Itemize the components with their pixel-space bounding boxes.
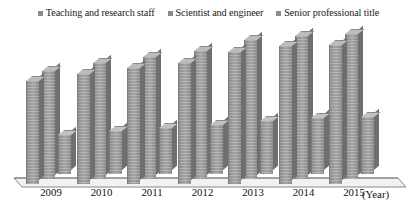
bar-face — [58, 135, 71, 174]
bar-2013-series-1[interactable] — [228, 52, 241, 184]
bar-2011-series-3[interactable] — [159, 128, 172, 174]
bar-group — [228, 28, 274, 184]
bar-group — [279, 28, 325, 184]
x-tick-label: 2014 — [293, 186, 315, 198]
legend-item-teaching-and-research-staff[interactable]: Teaching and research staff — [38, 7, 155, 18]
bar-2014-series-3[interactable] — [311, 118, 324, 174]
x-tick-label: 2009 — [40, 186, 62, 198]
bar-2013-series-3[interactable] — [260, 121, 273, 174]
bar-group — [77, 28, 123, 184]
bar-side — [140, 60, 145, 180]
x-axis: 2009201020112012201320142015 (Year) — [0, 186, 417, 208]
legend-swatch-icon — [276, 11, 281, 16]
x-tick-label: 2013 — [242, 186, 264, 198]
bar-side — [324, 110, 329, 170]
plot-area — [0, 24, 417, 184]
bar-face — [311, 118, 324, 174]
legend-item-scientist-and-engineer[interactable]: Scientist and engineer — [168, 7, 264, 18]
legend-label: Scientist and engineer — [176, 7, 264, 18]
bar-chart: Teaching and research staff Scientist an… — [0, 0, 417, 216]
x-tick-label: 2010 — [91, 186, 113, 198]
x-tick-label: 2012 — [192, 186, 214, 198]
legend-item-senior-professional-title[interactable]: Senior professional title — [276, 7, 379, 18]
legend-label: Teaching and research staff — [46, 7, 155, 18]
bar-side — [292, 38, 297, 180]
bar-group — [178, 28, 224, 184]
legend-swatch-icon — [168, 11, 173, 16]
bar-side — [241, 44, 246, 180]
bar-2010-series-3[interactable] — [109, 131, 122, 174]
bar-group — [127, 28, 173, 184]
bar-side — [172, 120, 177, 170]
legend-label: Senior professional title — [284, 7, 379, 18]
bar-side — [191, 55, 196, 180]
bar-face — [329, 45, 342, 184]
bar-2012-series-1[interactable] — [178, 63, 191, 184]
bar-face — [361, 117, 374, 174]
bar-side — [342, 36, 347, 180]
axis-title-year: (Year) — [362, 188, 389, 200]
chart-legend: Teaching and research staff Scientist an… — [0, 7, 417, 18]
bar-group — [329, 28, 375, 184]
bar-side — [374, 109, 379, 170]
bar-2015-series-1[interactable] — [329, 45, 342, 184]
bar-2009-series-1[interactable] — [26, 81, 39, 184]
bar-face — [228, 52, 241, 184]
bar-face — [159, 128, 172, 174]
bar-side — [223, 117, 228, 170]
bar-face — [210, 125, 223, 174]
bar-face — [178, 63, 191, 184]
bar-side — [39, 73, 44, 180]
bar-2009-series-3[interactable] — [58, 135, 71, 174]
bar-side — [273, 113, 278, 170]
bar-2015-series-3[interactable] — [361, 117, 374, 174]
bar-2010-series-1[interactable] — [77, 74, 90, 184]
x-tick-label: 2011 — [141, 186, 162, 198]
bar-face — [109, 131, 122, 174]
bar-face — [26, 81, 39, 184]
bar-group — [26, 28, 72, 184]
bar-2011-series-1[interactable] — [127, 68, 140, 184]
legend-swatch-icon — [38, 11, 43, 16]
bar-side — [90, 66, 95, 180]
bar-2012-series-3[interactable] — [210, 125, 223, 174]
bar-face — [260, 121, 273, 174]
bar-face — [77, 74, 90, 184]
bar-face — [127, 68, 140, 184]
